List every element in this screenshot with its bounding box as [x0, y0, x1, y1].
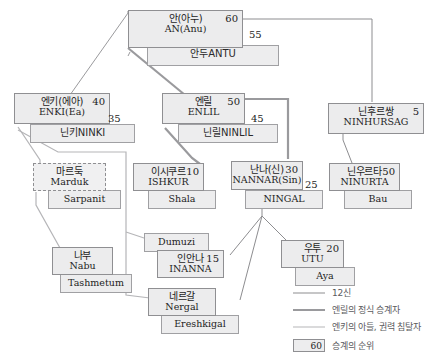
box-nergal[interactable]: 네르갈 Nergal: [148, 288, 216, 316]
box-ninhursag[interactable]: 닌후르쌍 NINHURSAG 5: [328, 103, 424, 134]
spouse-name-dumuzi: Dumuzi: [145, 234, 208, 249]
spouse-name-ningal: NINGAL: [246, 191, 322, 206]
rank-utu: 20: [326, 244, 339, 254]
spouse-name-antu: 안두ANTU: [148, 46, 278, 60]
legend: 12신 엔릴의 정식 승계자 엔키의 아들, 권력 침탈자 60 승계의 순위: [293, 284, 421, 355]
rank-ninhursag: 5: [413, 107, 419, 117]
name-en-an: AN(Anu): [129, 24, 242, 36]
box-an[interactable]: 안(아누) AN(Anu) 60: [128, 10, 243, 48]
spouse-box-ningal: NINGAL: [245, 190, 323, 209]
name-en-utu: UTU: [282, 254, 343, 266]
name-en-marduk: Marduk: [34, 177, 105, 189]
rank-ninurta: 50: [382, 167, 395, 177]
legend-line-thick-icon: [293, 306, 325, 314]
rank-an: 60: [225, 14, 238, 24]
legend-rank-box-icon: 60: [293, 339, 325, 352]
box-ishkur[interactable]: 이시쿠르 ISHKUR 10: [133, 163, 204, 191]
rank-enki: 40: [92, 97, 105, 107]
legend-line-thin-icon: [293, 289, 325, 297]
name-en-inanna: INANNA: [158, 264, 223, 276]
family-tree-diagram: 안두ANTU 55 안(아누) AN(Anu) 60 닌키NINKI 35 엔키…: [0, 0, 427, 360]
spouse-name-aya: Aya: [296, 268, 354, 283]
rank-ninlil: 45: [251, 114, 264, 124]
spouse-box-ninki: 닌키NINKI: [30, 124, 135, 143]
rank-enlil: 50: [227, 97, 240, 107]
spouse-name-sarpanit: Sarpanit: [49, 191, 120, 206]
rank-nannar: 30: [285, 165, 298, 175]
name-en-ninurta: NINURTA: [330, 177, 399, 189]
legend-label-2: 엔키의 아들, 권력 침탈자: [332, 320, 421, 333]
rank-ishkur: 10: [186, 167, 199, 177]
spouse-name-bau: Bau: [345, 191, 411, 206]
rank-ningal: 25: [305, 180, 318, 190]
legend-item-0: 12신: [293, 284, 421, 301]
box-marduk[interactable]: 마르둑 Marduk: [33, 163, 106, 191]
legend-label-0: 12신: [332, 286, 351, 299]
spouse-name-shala: Shala: [149, 191, 215, 206]
name-en-nabu: Nabu: [53, 261, 112, 273]
spouse-box-ninlil: 닌릴NINLIL: [178, 124, 278, 143]
legend-line-mid-icon: [293, 323, 325, 331]
spouse-box-ereshkigal: Ereshkigal: [161, 315, 239, 334]
box-enki[interactable]: 엔키(에아) ENKI(Ea) 40: [14, 93, 110, 124]
spouse-name-tashmetum: Tashmetum: [61, 275, 131, 290]
name-en-nannar: NANNAR(Sin): [232, 175, 302, 187]
box-enlil[interactable]: 엔릴 ENLIL 50: [162, 93, 245, 124]
legend-item-2: 엔키의 아들, 권력 침탈자: [293, 318, 421, 335]
legend-rank-value: 60: [311, 340, 322, 352]
legend-item-rank: 60 승계의 순위: [293, 335, 421, 355]
name-en-enki: ENKI(Ea): [15, 107, 109, 119]
legend-item-1: 엔릴의 정식 승계자: [293, 301, 421, 318]
rank-antu: 55: [249, 30, 262, 40]
spouse-name-ninki: 닌키NINKI: [31, 125, 134, 139]
spouse-box-bau: Bau: [344, 190, 412, 209]
spouse-box-antu: 안두ANTU: [147, 45, 279, 66]
box-inanna[interactable]: 인안나 INANNA 15: [157, 250, 224, 278]
name-en-nergal: Nergal: [149, 302, 215, 314]
rank-inanna: 15: [206, 254, 219, 264]
spouse-box-tashmetum: Tashmetum: [60, 274, 132, 293]
name-en-ishkur: ISHKUR: [134, 177, 203, 189]
spouse-box-sarpanit: Sarpanit: [48, 190, 121, 209]
box-nannar[interactable]: 난나(신) NANNAR(Sin) 30: [231, 161, 303, 190]
legend-label-rank: 승계의 순위: [332, 339, 374, 352]
legend-label-1: 엔릴의 정식 승계자: [332, 303, 400, 316]
spouse-box-shala: Shala: [148, 190, 216, 209]
box-ninurta[interactable]: 닌우르타 NINURTA 50: [329, 163, 400, 191]
name-en-enlil: ENLIL: [163, 107, 244, 119]
spouse-name-ninlil: 닌릴NINLIL: [179, 125, 277, 139]
box-utu[interactable]: 우투 UTU 20: [281, 240, 344, 268]
rank-ninki: 35: [108, 114, 121, 124]
name-en-ninhursag: NINHURSAG: [329, 117, 423, 129]
spouse-name-ereshkigal: Ereshkigal: [162, 316, 238, 331]
box-nabu[interactable]: 나부 Nabu: [52, 247, 113, 275]
